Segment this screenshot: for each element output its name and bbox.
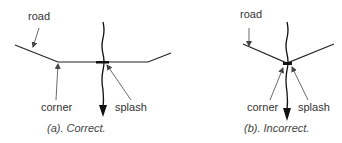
caption-a: (a). Correct.: [47, 122, 106, 134]
trajectory-arrowhead-a: [99, 105, 107, 117]
corner-pointer-a: [56, 64, 58, 100]
trajectory-line-a: [102, 22, 104, 108]
splash-mark-b: [283, 62, 292, 65]
caption-b: (b). Incorrect.: [244, 122, 309, 134]
splash-pointer-a: [107, 65, 131, 100]
splash-label-b: splash: [298, 101, 330, 113]
road-pointer-a: [33, 28, 39, 47]
road-label-a: road: [28, 10, 50, 22]
splash-label-a: splash: [115, 101, 147, 113]
panel-a-diagram: [15, 22, 171, 117]
trajectory-line-b: [286, 22, 288, 110]
corner-label-b: corner: [247, 101, 278, 113]
splash-pointer-b: [292, 67, 308, 100]
splash-mark-a: [96, 61, 109, 64]
road-label-b: road: [240, 8, 262, 20]
road-line-a: [15, 45, 171, 62]
trajectory-arrowhead-b: [283, 108, 291, 121]
corner-pointer-b: [270, 68, 283, 100]
corner-label-a: corner: [41, 101, 72, 113]
